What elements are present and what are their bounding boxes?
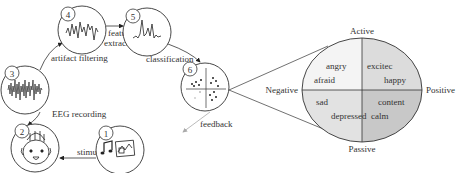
emotion-sad: sad xyxy=(316,97,328,107)
step-4-filtered-eeg: 4 xyxy=(58,6,106,54)
label-eeg-recording: EEG recording xyxy=(52,109,107,119)
axis-label-passive: Passive xyxy=(349,144,376,154)
step-1-stimulus: 1 xyxy=(96,126,144,173)
axis-label-negative: Negative xyxy=(266,85,298,95)
axis-label-positive: Positive xyxy=(426,85,455,95)
eeg-emotion-diagram: artifact filtering feature extraction cl… xyxy=(0,0,460,173)
step-number: 2 xyxy=(20,127,25,137)
step-number: 1 xyxy=(104,129,109,139)
emotion-happy: happy xyxy=(384,75,406,85)
step-number: 6 xyxy=(188,65,193,75)
emotion-excited: excitec xyxy=(367,61,392,71)
step-number: 3 xyxy=(10,69,15,79)
step-5-features: 5 xyxy=(123,8,171,56)
emotion-angry: angry xyxy=(326,61,347,71)
step-number: 4 xyxy=(66,10,71,20)
emotion-depressed: depressed xyxy=(331,111,367,121)
emotion-circumplex: Active Passive Negative Positive angry a… xyxy=(266,26,456,154)
emotion-calm: calm xyxy=(371,111,389,121)
step-2-subject: 2 xyxy=(11,124,59,172)
step-6-classifier: 6 xyxy=(181,62,229,111)
axis-label-active: Active xyxy=(350,26,374,36)
step-3-raw-eeg: 3 xyxy=(1,66,49,114)
emotion-content: content xyxy=(378,97,405,107)
step-number: 5 xyxy=(131,12,136,22)
label-feedback: feedback xyxy=(200,119,233,129)
emotion-afraid: afraid xyxy=(314,75,335,85)
label-artifact-filtering: artifact filtering xyxy=(51,53,108,63)
